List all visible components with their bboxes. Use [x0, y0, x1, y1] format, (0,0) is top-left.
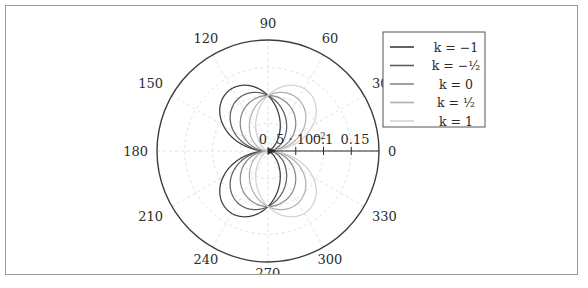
legend-item-label-3: k = ¹⁄₂: [437, 95, 475, 110]
angle-label-60: 60: [322, 31, 339, 46]
radial-tick-label-2: 0.1: [313, 132, 334, 147]
angle-label-270: 270: [256, 266, 281, 274]
radial-tick-labels: 0 5 · 10−2 0.1 0.15: [259, 131, 370, 147]
radial-tick-label-1-mantissa: 5 · 10: [276, 132, 313, 147]
angle-label-240: 240: [194, 252, 219, 267]
angle-label-90: 90: [260, 16, 277, 31]
legend-item-label-0: k = −1: [434, 40, 478, 55]
legend-item-label-1: k = −¹⁄₂: [432, 58, 481, 73]
radial-tick-label-3: 0.15: [341, 132, 370, 147]
angle-label-330: 330: [372, 209, 397, 224]
radial-tick-label-0: 0: [259, 132, 267, 147]
figure-frame: 0 5 · 10−2 0.1 0.15 0 30 60 90 120 150 1…: [5, 5, 578, 275]
angle-label-180: 180: [123, 144, 148, 159]
angle-label-150: 150: [138, 76, 163, 91]
legend-item-label-2: k = 0: [439, 77, 473, 92]
polar-plot: 0 5 · 10−2 0.1 0.15 0 30 60 90 120 150 1…: [6, 6, 577, 274]
angle-label-210: 210: [138, 209, 163, 224]
angle-label-0: 0: [388, 144, 396, 159]
angle-label-120: 120: [194, 31, 219, 46]
legend[interactable]: k = −1k = −¹⁄₂k = 0k = ¹⁄₂k = 1: [383, 32, 485, 129]
legend-item-label-4: k = 1: [439, 114, 473, 129]
angle-label-300: 300: [318, 252, 343, 267]
